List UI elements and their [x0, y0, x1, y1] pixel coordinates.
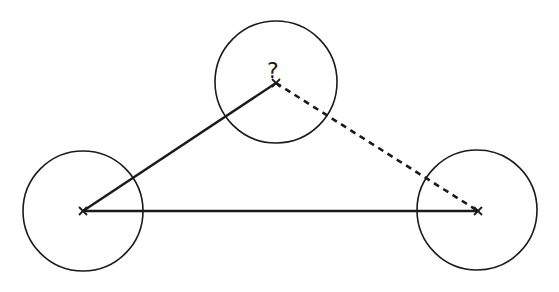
triangulation-diagram: ?	[0, 0, 559, 292]
edge-top-right-dashed	[276, 83, 478, 211]
edge-left-top	[83, 83, 276, 211]
unknown-question-label: ?	[267, 58, 279, 83]
